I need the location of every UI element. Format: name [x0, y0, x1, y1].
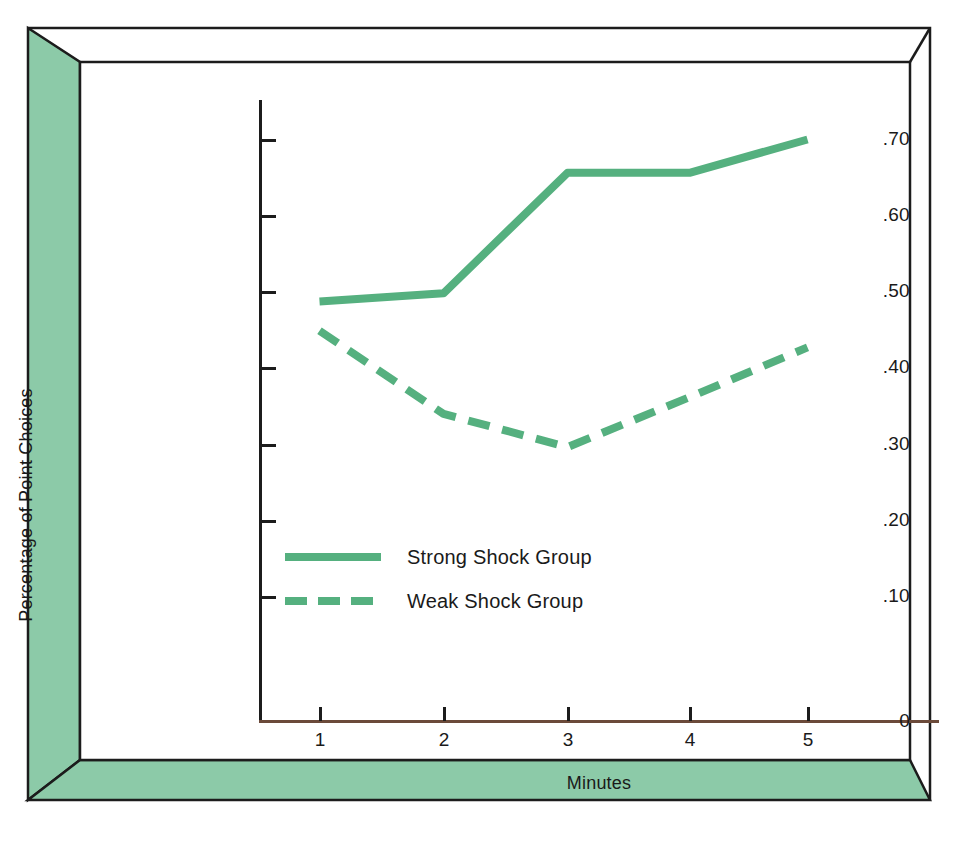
legend-swatch-dashed: [285, 597, 381, 605]
series-layer: [80, 55, 910, 755]
y-axis-title: Percentage of Point Choices: [16, 355, 37, 655]
legend-label-weak-shock-group: Weak Shock Group: [407, 590, 583, 613]
legend-label-strong-shock-group: Strong Shock Group: [407, 546, 592, 569]
plot-area: .70 .60 .50 .40 .30 .20 .10 0 1 2 3 4 5 …: [80, 55, 910, 755]
chart-legend: Strong Shock Group Weak Shock Group: [285, 535, 592, 623]
frame-corner-edge: [910, 28, 930, 62]
x-axis-title: Minutes: [259, 773, 939, 794]
figure-root: .70 .60 .50 .40 .30 .20 .10 0 1 2 3 4 5 …: [0, 0, 958, 842]
legend-item-strong-shock-group: Strong Shock Group: [285, 535, 592, 579]
legend-swatch-solid: [285, 553, 381, 561]
legend-item-weak-shock-group: Weak Shock Group: [285, 579, 592, 623]
series-weak-shock-group: [320, 331, 808, 447]
series-strong-shock-group: [320, 140, 808, 302]
